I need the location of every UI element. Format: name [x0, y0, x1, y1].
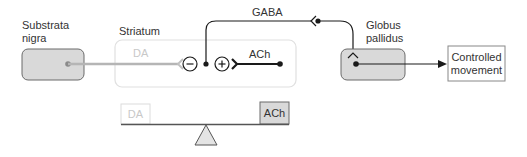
controlled-movement-node: Controlled movement [448, 46, 505, 81]
striatum-da-label: DA [133, 47, 149, 59]
striatum-label: Striatum [119, 25, 160, 37]
inhibitory-receptor [183, 57, 197, 71]
substantia-nigra-label-2: nigra [22, 32, 47, 44]
balance-fulcrum-icon [195, 125, 217, 145]
gaba-terminal-dot [203, 61, 208, 66]
balance-scale: DA ACh [121, 102, 289, 145]
substantia-nigra-node: Substrata nigra [22, 19, 84, 80]
globus-pallidus-node: Globus pallidus [341, 19, 405, 80]
substantia-nigra-label-1: Substrata [22, 19, 70, 31]
basal-ganglia-diagram: Substrata nigra Striatum DA GABA ACh [0, 0, 527, 157]
arrow-right-icon [438, 60, 447, 68]
balance-da-label: DA [128, 108, 144, 120]
globus-pallidus-label-1: Globus [366, 19, 401, 31]
balance-ach-label: ACh [264, 107, 285, 119]
controlled-movement-label-2: movement [451, 64, 502, 76]
gaba-synapse-chevron-icon [311, 16, 316, 26]
gaba-to-gp-line [318, 21, 353, 52]
ach-origin-dot [277, 61, 283, 67]
globus-pallidus-label-2: pallidus [366, 32, 404, 44]
striatum-ach-label: ACh [249, 48, 270, 60]
controlled-movement-label-1: Controlled [451, 51, 501, 63]
gaba-label: GABA [252, 6, 283, 18]
